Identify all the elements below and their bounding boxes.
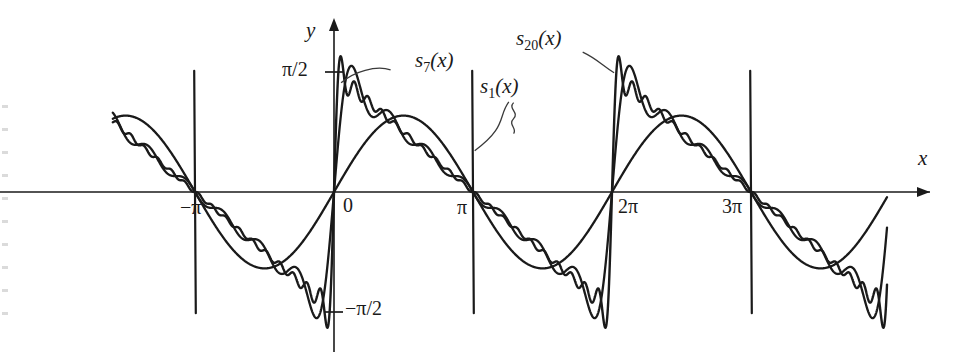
plot-graphics: [0, 18, 930, 352]
series-label-s20-suffix: (x): [538, 26, 561, 50]
series-label-s20-sub: 20: [524, 38, 538, 53]
discontinuity-jump-0: [194, 71, 196, 313]
figure-canvas: y x −π 0 π 2π 3π π/2 −π/2 s7(x) s1(x) s2…: [0, 0, 955, 364]
y-tick-label-pi-over-2: π/2: [282, 58, 308, 81]
y-axis-arrowhead: [329, 18, 339, 31]
series-label-s20: s20(x): [516, 26, 562, 54]
fourier-series-plot: [0, 0, 955, 364]
x-tick-label-3pi: 3π: [722, 195, 742, 218]
y-axis-label: y: [306, 18, 315, 43]
leader-line-s1: [475, 102, 509, 151]
x-tick-label-pi: π: [457, 196, 467, 219]
x-axis-arrowhead: [917, 187, 930, 197]
x-axis-label: x: [918, 146, 927, 171]
y-tick-label-neg-pi-over-2: −π/2: [345, 297, 382, 320]
series-label-s7-base: s: [415, 48, 423, 72]
series-label-s7: s7(x): [415, 48, 454, 76]
x-tick-label-2pi: 2π: [618, 195, 638, 218]
series-label-s1: s1(x): [480, 74, 519, 102]
discontinuity-jump-2: [750, 71, 752, 313]
series-label-s1-base: s: [480, 74, 488, 98]
series-label-s1-suffix: (x): [495, 74, 518, 98]
x-tick-label-neg-pi: −π: [180, 196, 201, 219]
discontinuity-jump-1: [472, 71, 474, 313]
series-label-s20-base: s: [516, 26, 524, 50]
series-label-s7-suffix: (x): [430, 48, 453, 72]
x-tick-label-zero: 0: [343, 194, 353, 217]
leader-squiggle-s1: [512, 103, 516, 134]
leader-line-s20: [583, 52, 614, 73]
